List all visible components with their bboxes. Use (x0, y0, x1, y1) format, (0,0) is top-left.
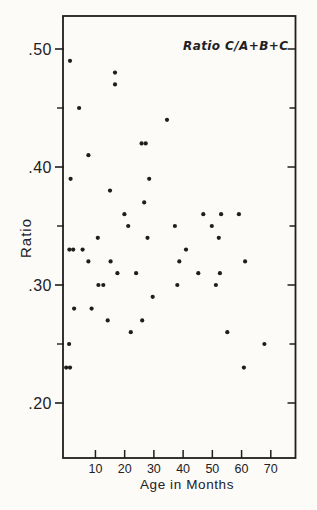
data-point (115, 271, 119, 275)
data-point (77, 106, 81, 110)
x-tick-label: 60 (235, 462, 249, 476)
data-point (86, 153, 90, 157)
data-point (129, 330, 133, 334)
data-point (126, 224, 130, 228)
data-point (151, 295, 155, 299)
data-point (262, 342, 266, 346)
data-point (144, 141, 148, 145)
x-tick-label: 50 (205, 462, 219, 476)
chart-title: Ratio C/A+B+C (183, 39, 281, 53)
x-tick-label: 10 (88, 462, 102, 476)
x-tick-label: 30 (147, 462, 161, 476)
data-point (96, 283, 100, 287)
plot-svg: .50.40.30.2010203040506070 (0, 0, 317, 510)
data-point (67, 248, 71, 252)
x-axis-ticks: 10203040506070 (88, 450, 277, 476)
data-point (113, 71, 117, 75)
data-point (145, 236, 149, 240)
data-point (122, 212, 126, 216)
right-axis-ticks (288, 49, 296, 403)
data-point (196, 271, 200, 275)
data-point (108, 189, 112, 193)
data-point (147, 177, 151, 181)
data-point (201, 212, 205, 216)
data-point (81, 248, 85, 252)
screenshot-root: .50.40.30.2010203040506070 Ratio C/A+B+C… (0, 0, 317, 510)
data-point (177, 259, 181, 263)
data-point (113, 82, 117, 86)
data-point (165, 118, 169, 122)
data-point (69, 177, 73, 181)
data-point (140, 318, 144, 322)
data-point (175, 283, 179, 287)
x-tick-label: 70 (264, 462, 278, 476)
data-point (217, 236, 221, 240)
x-tick-label: 20 (118, 462, 132, 476)
y-tick-label: .50 (28, 41, 52, 58)
data-point (219, 212, 223, 216)
data-point (237, 212, 241, 216)
y-axis-ticks: .50.40.30.20 (28, 41, 64, 412)
y-axis-label: Ratio (17, 218, 34, 258)
data-point (218, 271, 222, 275)
data-point (242, 366, 246, 370)
data-point (214, 283, 218, 287)
data-point (173, 224, 177, 228)
data-point (142, 200, 146, 204)
data-point (68, 59, 72, 63)
data-point (106, 318, 110, 322)
x-tick-label: 40 (176, 462, 190, 476)
data-point (64, 366, 68, 370)
scatter-plot-figure: .50.40.30.2010203040506070 Ratio C/A+B+C… (0, 0, 317, 510)
data-point (96, 236, 100, 240)
data-point (67, 342, 71, 346)
data-point (210, 224, 214, 228)
data-points (64, 59, 266, 370)
data-point (71, 248, 75, 252)
data-point (109, 259, 113, 263)
data-point (68, 366, 72, 370)
data-point (101, 283, 105, 287)
y-tick-label: .20 (28, 395, 52, 412)
y-tick-label: .30 (28, 277, 52, 294)
x-axis-label: Age in Months (140, 477, 234, 492)
data-point (184, 248, 188, 252)
data-point (72, 307, 76, 311)
data-point (140, 141, 144, 145)
data-point (243, 259, 247, 263)
data-point (134, 271, 138, 275)
y-tick-label: .40 (28, 159, 52, 176)
data-point (225, 330, 229, 334)
data-point (90, 307, 94, 311)
data-point (86, 259, 90, 263)
